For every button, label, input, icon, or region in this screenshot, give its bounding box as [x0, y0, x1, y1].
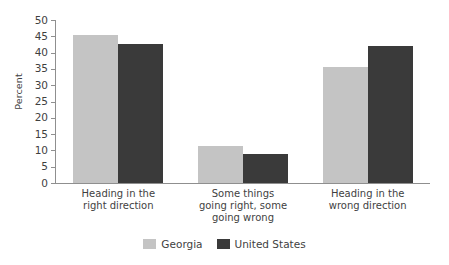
y-tick-label: 15 — [26, 129, 48, 140]
bar-georgia[interactable] — [198, 146, 243, 183]
bar-united-states[interactable] — [243, 154, 288, 183]
plot-area — [56, 20, 430, 183]
bar-georgia[interactable] — [73, 35, 118, 183]
x-category-label: Heading in theright direction — [53, 188, 183, 212]
legend-swatch-icon — [143, 239, 156, 249]
y-tick-label: 45 — [26, 31, 48, 42]
x-category-label: Some thingsgoing right, somegoing wrong — [178, 188, 308, 224]
bar-group — [305, 20, 430, 183]
x-category-label-line: Some things — [178, 188, 308, 200]
bar-group — [181, 20, 306, 183]
y-tick-label: 25 — [26, 96, 48, 107]
legend-label: Georgia — [161, 238, 202, 250]
bar-georgia[interactable] — [323, 67, 368, 183]
x-axis-line — [55, 183, 430, 184]
y-tick-label: 50 — [26, 15, 48, 26]
legend-label: United States — [235, 238, 306, 250]
x-category-label-line: wrong direction — [303, 200, 433, 212]
y-tick-label: 0 — [26, 178, 48, 189]
y-axis-tick-labels: 05101520253035404550 — [22, 0, 48, 265]
y-tick-label: 10 — [26, 145, 48, 156]
y-tick-label: 5 — [26, 161, 48, 172]
y-tick-label: 20 — [26, 112, 48, 123]
y-tick-label: 40 — [26, 47, 48, 58]
chart-legend: GeorgiaUnited States — [0, 238, 449, 250]
x-category-label-line: Heading in the — [53, 188, 183, 200]
x-category-label-line: going wrong — [178, 212, 308, 224]
bar-united-states[interactable] — [118, 44, 163, 183]
legend-entry[interactable]: United States — [217, 238, 306, 250]
y-tick-label: 30 — [26, 80, 48, 91]
x-category-label-line: right direction — [53, 200, 183, 212]
legend-swatch-icon — [217, 239, 230, 249]
legend-entry[interactable]: Georgia — [143, 238, 202, 250]
bar-group — [56, 20, 181, 183]
x-category-label-line: going right, some — [178, 200, 308, 212]
bar-chart: Percent 05101520253035404550 Heading in … — [0, 0, 449, 265]
bar-united-states[interactable] — [368, 46, 413, 183]
x-category-label: Heading in thewrong direction — [303, 188, 433, 212]
x-category-label-line: Heading in the — [303, 188, 433, 200]
y-tick-label: 35 — [26, 63, 48, 74]
